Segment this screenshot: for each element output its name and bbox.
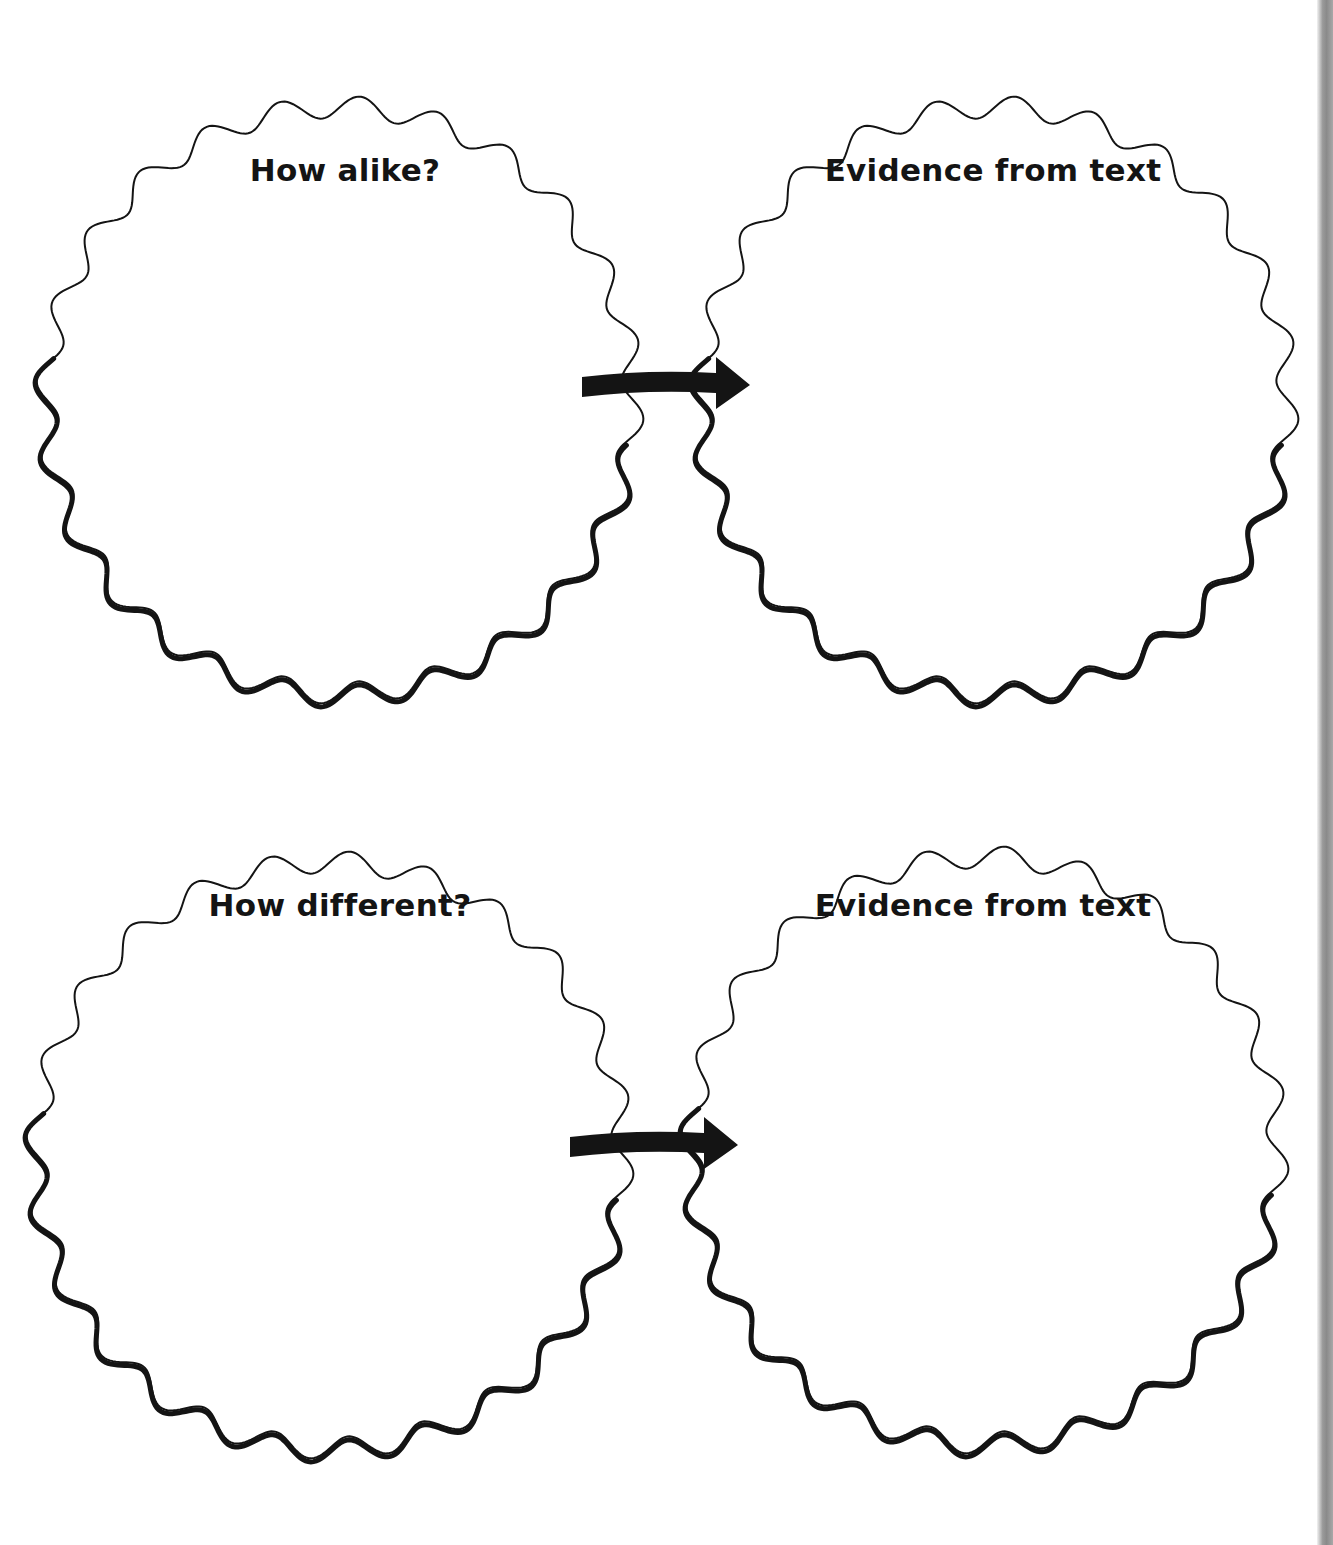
- panel-title-how-different: How different?: [209, 887, 472, 923]
- panel-title-evidence-alike: Evidence from text: [825, 152, 1162, 188]
- panel-title-how-alike: How alike?: [250, 152, 441, 188]
- worksheet-canvas: [0, 0, 1333, 1545]
- panel-title-evidence-different: Evidence from text: [815, 887, 1152, 923]
- page-binding-edge: [1317, 0, 1333, 1545]
